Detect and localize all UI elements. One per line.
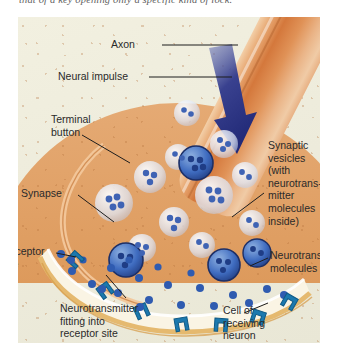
label-neurotransmitter-fitting: Neurotransmitter fitting into receptor s…: [60, 302, 138, 340]
label-synapse: Synapse: [21, 187, 62, 200]
page-caption: that of a key opening only a specific ki…: [19, 0, 319, 8]
label-terminal-button: Terminal button: [51, 113, 91, 138]
label-receptor-site: Receptor site: [18, 245, 45, 270]
figure-page: that of a key opening only a specific ki…: [0, 0, 338, 351]
label-neurotransmitter-molecules: Neurotransmitter molecules: [270, 249, 320, 274]
synaptic-transmission-illustration: Axon Neural impulse Terminal button Syna…: [18, 17, 320, 343]
label-axon: Axon: [111, 38, 135, 51]
label-synaptic-vesicles: Synaptic vesicles (with neurotrans- mitt…: [268, 139, 320, 227]
label-cell-of-receiving-neuron: Cell of receiving neuron: [223, 304, 265, 342]
label-neural-impulse: Neural impulse: [58, 70, 128, 83]
